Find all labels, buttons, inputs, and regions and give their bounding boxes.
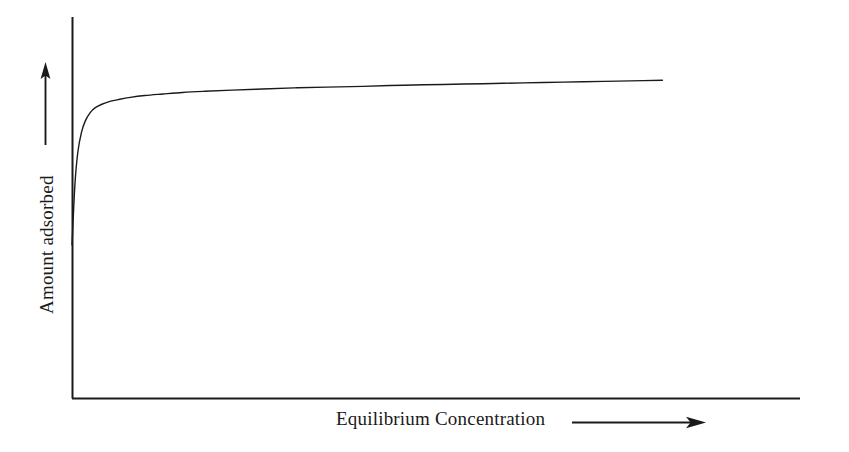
adsorption-isotherm-figure: Amount adsorbed Equilibrium Concentratio… (0, 0, 849, 452)
x-axis-label: Equilibrium Concentration (336, 408, 545, 430)
y-axis-arrow-icon (41, 62, 51, 145)
isotherm-curve (72, 80, 662, 245)
x-axis-arrow-icon (572, 417, 706, 428)
y-axis-label: Amount adsorbed (36, 175, 58, 314)
plot-canvas (0, 0, 849, 452)
